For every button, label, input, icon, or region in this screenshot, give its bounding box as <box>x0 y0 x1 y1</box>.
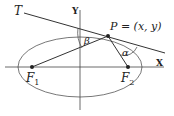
focus-f2 <box>126 65 130 69</box>
y-axis-label: Y <box>71 6 79 16</box>
focus1-label: F1 <box>25 71 39 87</box>
focus-f1 <box>30 65 34 69</box>
tangent-line <box>24 13 165 53</box>
focus2-label: F2 <box>120 71 134 87</box>
angle-beta-label: β <box>83 35 90 46</box>
point-p-label: P = (x, y) <box>109 20 162 33</box>
x-axis-label: X <box>156 58 163 68</box>
ellipse-reflection-diagram: T Y X P = (x, y) β α F1 F2 <box>0 0 174 116</box>
point-p <box>106 34 110 38</box>
angle-alpha-label: α <box>122 47 129 58</box>
tangent-label: T <box>14 4 23 18</box>
segment-f1-p <box>32 36 108 67</box>
